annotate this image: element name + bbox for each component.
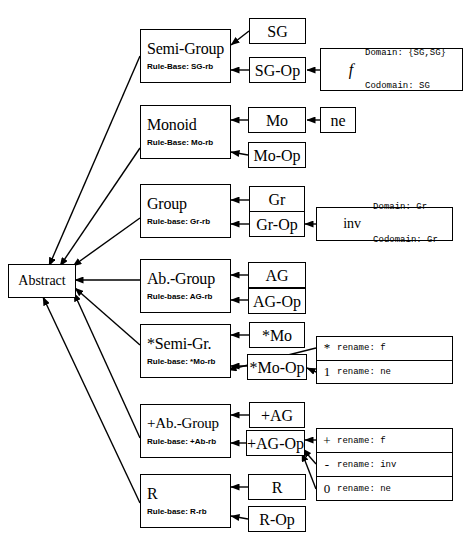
- edge-semi-group-abstract: [49, 56, 140, 266]
- group-title: Group: [147, 195, 230, 212]
- rename-symbol: +: [317, 433, 337, 449]
- edge-plus-ab-abstract: [74, 293, 140, 438]
- sg-label: SG: [267, 23, 287, 40]
- edge-ring-abstract: [43, 297, 140, 503]
- f-codomain: Codomain: SG: [365, 81, 446, 92]
- node-gr[interactable]: Gr: [249, 186, 305, 212]
- edge-monoid-abstract: [60, 148, 140, 266]
- ring-rule-base: Rule-base: R-rb: [147, 507, 230, 517]
- plus-ab-group-title: +Ab.-Group: [147, 415, 230, 432]
- node-ag-op[interactable]: AG-Op: [248, 288, 306, 314]
- rename-label: rename: ne: [337, 367, 391, 377]
- ab-group-title: Ab.-Group: [147, 270, 230, 287]
- node-abstract[interactable]: Abstract: [8, 264, 76, 298]
- star-mo-label: *Mo: [262, 327, 292, 344]
- rename-label: rename: ne: [337, 484, 391, 494]
- ring-title: R: [147, 485, 230, 502]
- node-plus-ag-op[interactable]: +AG-Op: [246, 430, 305, 456]
- node-sg-op[interactable]: SG-Op: [249, 57, 306, 83]
- star-semi-gr-title: *Semi-Gr.: [147, 335, 230, 352]
- rename-row[interactable]: - rename: inv: [317, 453, 452, 477]
- edge-group-abstract: [73, 218, 140, 266]
- node-plus-rename-table[interactable]: + rename: f - rename: inv 0 rename: ne: [316, 428, 453, 501]
- node-star-semi-gr[interactable]: *Semi-Gr. Rule-base: *Mo-rb: [140, 324, 231, 378]
- node-plus-ag[interactable]: +AG: [249, 402, 305, 428]
- ab-group-rule-base: Rule-base: AG-rb: [147, 292, 230, 302]
- rename-label: rename: inv: [337, 460, 396, 470]
- mo-op-label: Mo-Op: [253, 147, 300, 164]
- node-gr-op[interactable]: Gr-Op: [249, 211, 305, 237]
- node-inv-signature[interactable]: inv Domain: Gr Codomain: Gr: [316, 207, 453, 241]
- diagram-canvas: Abstract Semi-Group Rule-Base: SG-rb SG …: [0, 0, 468, 546]
- node-mo-op[interactable]: Mo-Op: [248, 142, 306, 168]
- semi-group-title: Semi-Group: [147, 40, 230, 57]
- group-rule-base: Rule-base: Gr-rb: [147, 217, 230, 227]
- ag-label: AG: [265, 267, 288, 284]
- monoid-rule-base: Rule-Base: Mo-rb: [147, 138, 230, 148]
- node-ring[interactable]: R Rule-base: R-rb: [140, 474, 231, 528]
- node-semi-group[interactable]: Semi-Group Rule-Base: SG-rb: [140, 29, 231, 83]
- node-ag[interactable]: AG: [248, 262, 306, 288]
- r-sort-label: R: [272, 479, 283, 496]
- rename-symbol: *: [317, 340, 337, 356]
- ne-label: ne: [330, 112, 345, 129]
- plus-ab-group-rule-base: Rule-base: +Ab-rb: [147, 437, 230, 447]
- rename-row[interactable]: 1 rename: ne: [317, 361, 452, 384]
- gr-op-label: Gr-Op: [256, 216, 297, 233]
- rename-label: rename: f: [337, 436, 386, 446]
- edge-sg-semi-group: [231, 31, 249, 45]
- r-op-label: R-Op: [259, 511, 295, 528]
- node-ne[interactable]: ne: [320, 107, 356, 133]
- ag-op-label: AG-Op: [253, 293, 301, 310]
- node-star-mo[interactable]: *Mo: [249, 322, 305, 348]
- edge-rop-ring: [231, 516, 248, 519]
- abstract-label: Abstract: [18, 273, 65, 289]
- rename-symbol: -: [317, 457, 337, 473]
- node-star-mo-op[interactable]: *Mo-Op: [247, 354, 307, 380]
- edge-moop-monoid: [231, 152, 248, 155]
- edge-rename-one-starmoop: [307, 368, 316, 372]
- node-mo[interactable]: Mo: [248, 107, 306, 133]
- plus-ag-op-label: +AG-Op: [247, 435, 304, 452]
- node-r-op[interactable]: R-Op: [248, 506, 306, 532]
- star-semi-gr-rule-base: Rule-base: *Mo-rb: [147, 357, 230, 367]
- node-star-rename-table[interactable]: * rename: f 1 rename: ne: [316, 336, 453, 384]
- star-mo-op-label: *Mo-Op: [249, 359, 304, 376]
- mo-label: Mo: [266, 112, 288, 129]
- node-sg[interactable]: SG: [249, 18, 306, 44]
- rename-row[interactable]: 0 rename: ne: [317, 477, 452, 500]
- node-group[interactable]: Group Rule-base: Gr-rb: [140, 184, 231, 238]
- monoid-title: Monoid: [147, 116, 230, 133]
- sg-op-label: SG-Op: [255, 62, 300, 79]
- f-symbol: f: [337, 61, 365, 79]
- node-ab-group[interactable]: Ab.-Group Rule-base: AG-rb: [140, 259, 231, 313]
- node-monoid[interactable]: Monoid Rule-Base: Mo-rb: [140, 105, 231, 159]
- node-f-signature[interactable]: f Domain: {SG,SG} Codomain: SG: [320, 48, 463, 91]
- semi-group-rule-base: Rule-Base: SG-rb: [147, 62, 230, 72]
- inv-symbol: inv: [331, 216, 373, 232]
- rename-symbol: 0: [317, 481, 337, 497]
- rename-row[interactable]: + rename: f: [317, 429, 452, 453]
- rename-row[interactable]: * rename: f: [317, 337, 452, 361]
- f-domain: Domain: {SG,SG}: [365, 48, 446, 59]
- node-r-sort[interactable]: R: [248, 474, 306, 500]
- rename-symbol: 1: [317, 364, 337, 380]
- inv-codomain: Codomain: Gr: [373, 235, 438, 246]
- inv-domain: Domain: Gr: [373, 202, 438, 213]
- node-plus-ab-group[interactable]: +Ab.-Group Rule-base: +Ab-rb: [140, 404, 231, 458]
- gr-label: Gr: [269, 191, 286, 208]
- rename-label: rename: f: [337, 343, 386, 353]
- plus-ag-label: +AG: [261, 407, 293, 424]
